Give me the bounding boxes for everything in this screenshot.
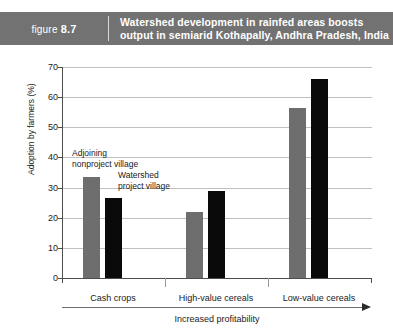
category-label-high-value-cereals: High-value cereals bbox=[179, 293, 254, 303]
y-axis-label-60: 60 bbox=[28, 92, 58, 102]
figure-label: figure 8.7 bbox=[0, 23, 108, 35]
y-axis-label-50: 50 bbox=[28, 122, 58, 132]
plot-region: 70 60 50 40 30 20 10 0 Cash crops High-v… bbox=[62, 67, 372, 278]
figure-label-number: 8.7 bbox=[61, 23, 77, 35]
bar-low-value-cereals-adjoining-nonproject-village bbox=[289, 108, 306, 278]
chart-area: Adoption by farmers (%) 70 60 50 40 30 2… bbox=[0, 45, 393, 331]
category-separator-1 bbox=[165, 278, 166, 287]
bar-cash-crops-watershed-project-village bbox=[105, 198, 122, 278]
figure-header: figure 8.7 Watershed development in rain… bbox=[0, 12, 393, 45]
bar-high-value-cereals-adjoining-nonproject-village bbox=[186, 212, 203, 278]
y-axis-label-20: 20 bbox=[28, 213, 58, 223]
y-axis-label-70: 70 bbox=[28, 62, 58, 72]
y-axis-label-10: 10 bbox=[28, 243, 58, 253]
y-axis-line bbox=[62, 67, 63, 279]
y-axis-label-30: 30 bbox=[28, 183, 58, 193]
figure-title: Watershed development in rainfed areas b… bbox=[109, 16, 389, 41]
category-label-cash-crops: Cash crops bbox=[90, 293, 136, 303]
x-tick-end bbox=[371, 278, 372, 283]
gridline-70 bbox=[62, 67, 372, 68]
figure-title-line-1: Watershed development in rainfed areas b… bbox=[120, 16, 389, 29]
figure-title-line-2: output in semiarid Kothapally, Andhra Pr… bbox=[120, 29, 389, 42]
category-label-low-value-cereals: Low-value cereals bbox=[283, 293, 356, 303]
y-axis-label-40: 40 bbox=[28, 152, 58, 162]
increased-profitability-axis: Increased profitability bbox=[62, 303, 372, 313]
bar-high-value-cereals-watershed-project-village bbox=[208, 191, 225, 278]
annotation-adjoining-nonproject-village: Adjoining nonproject village bbox=[72, 148, 138, 169]
annotation-watershed-project-village: Watershed project village bbox=[118, 170, 170, 191]
x-axis-title: Increased profitability bbox=[62, 314, 372, 324]
arrow-head-icon bbox=[362, 303, 371, 311]
figure-label-prefix: figure bbox=[31, 24, 57, 35]
bar-cash-crops-adjoining-nonproject-village bbox=[83, 177, 100, 278]
y-axis-label-0: 0 bbox=[28, 273, 58, 283]
x-axis-line bbox=[62, 278, 372, 279]
x-tick-start bbox=[62, 278, 63, 283]
category-separator-2 bbox=[268, 278, 269, 287]
bar-low-value-cereals-watershed-project-village bbox=[311, 79, 328, 278]
arrow-line bbox=[62, 307, 364, 308]
